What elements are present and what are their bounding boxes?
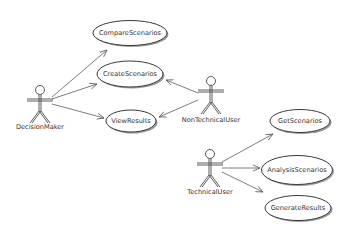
use-case-createscenarios[interactable]: CreateScenarios [97, 61, 165, 89]
use-case-generateresults[interactable]: GenerateResults [265, 196, 333, 223]
use-case-label: GenerateResults [271, 204, 326, 212]
use-case-label: AnalysisScenarios [267, 166, 327, 174]
actors: DecisionMakerNonTechnicalUserTechnicalUs… [16, 77, 241, 197]
stick-figure-icon [198, 77, 224, 115]
actor-nontechnicaluser[interactable]: NonTechnicalUser [182, 77, 241, 125]
actor-label: NonTechnicalUser [182, 116, 241, 124]
use-case-getscenarios[interactable]: GetScenarios [270, 110, 332, 135]
actor-technicaluser[interactable]: TechnicalUser [186, 150, 233, 197]
use-case-label: CreateScenarios [103, 70, 158, 78]
association-NonTechnicalUser-to-CreateScenarios [166, 80, 198, 93]
actor-label: TechnicalUser [186, 188, 233, 196]
association-NonTechnicalUser-to-ViewResults [159, 100, 198, 117]
use-case-label: ViewResults [111, 117, 151, 125]
use-case-viewresults[interactable]: ViewResults [106, 110, 158, 134]
use-case-comparescenarios[interactable]: CompareScenarios [93, 21, 169, 48]
stick-figure-icon [27, 86, 53, 124]
use-case-label: CompareScenarios [99, 29, 162, 37]
diagram-canvas: CompareScenariosCreateScenariosViewResul… [0, 0, 354, 239]
actor-label: DecisionMaker [16, 123, 64, 131]
association-TechnicalUser-to-GetScenarios [222, 134, 273, 162]
use-case-label: GetScenarios [278, 117, 322, 125]
use-case-diagram: CompareScenariosCreateScenariosViewResul… [0, 0, 354, 239]
use-case-analysisscenarios[interactable]: AnalysisScenarios [262, 156, 335, 187]
stick-figure-icon [197, 150, 223, 188]
association-DecisionMaker-to-ViewResults [52, 104, 104, 118]
